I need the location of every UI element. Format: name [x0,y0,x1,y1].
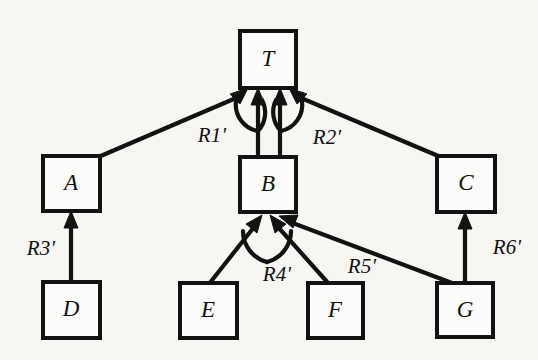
relation-label-R5: R5' [347,254,377,278]
node-A-label: A [62,170,79,195]
node-B-label: B [261,171,275,196]
node-G[interactable]: G [437,283,493,337]
node-E[interactable]: E [180,283,237,338]
graph-svg: T A B C D E F G [0,0,538,360]
node-T-label: T [262,46,277,71]
relation-label-R4: R4' [262,262,292,286]
node-C[interactable]: C [437,156,495,212]
node-F[interactable]: F [308,283,363,338]
node-A[interactable]: A [43,156,100,211]
node-D-label: D [62,296,80,321]
node-E-label: E [200,297,215,322]
edge-E-to-B [209,215,262,284]
node-B[interactable]: B [240,157,296,212]
relation-label-R1: R1' [197,123,227,147]
node-G-label: G [457,297,474,322]
edge-G-to-C [458,212,472,283]
edge-D-to-A [64,211,78,282]
relation-label-R2: R2' [312,125,342,149]
diagram-canvas: T A B C D E F G [0,0,538,360]
relation-label-R3: R3' [26,236,56,260]
node-T[interactable]: T [240,31,296,88]
node-D[interactable]: D [43,282,100,338]
relation-label-R6: R6' [492,235,522,259]
node-C-label: C [458,170,474,195]
node-F-label: F [327,297,343,322]
